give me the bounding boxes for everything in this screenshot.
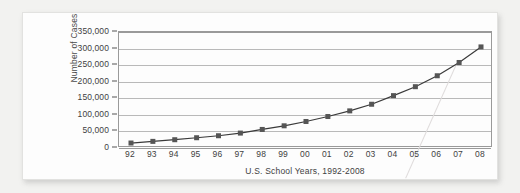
x-tick-label: 92	[118, 149, 142, 159]
x-tick-label: 95	[184, 149, 208, 159]
data-point-marker	[282, 123, 287, 128]
x-tick-label: 04	[381, 149, 405, 159]
data-point-marker	[194, 135, 199, 140]
data-point-marker	[435, 73, 440, 78]
x-axis-title: U.S. School Years, 1992-2008	[118, 166, 492, 176]
plot-area	[118, 31, 492, 147]
data-point-marker	[369, 102, 374, 107]
x-tick-label: 01	[315, 149, 339, 159]
y-tick-label: 0	[59, 142, 109, 152]
x-axis-tick-labels: 9293949596979899000102030405060708	[118, 149, 492, 163]
data-point-marker	[391, 93, 396, 98]
x-tick-label: 07	[446, 149, 470, 159]
figure-root: Number of Cases 050,000100,000150,000200…	[0, 0, 520, 193]
y-tick-mark	[112, 80, 117, 81]
y-tick-mark	[112, 113, 117, 114]
x-tick-label: 97	[227, 149, 251, 159]
y-tick-mark	[112, 64, 117, 65]
x-tick-label: 08	[468, 149, 492, 159]
x-tick-label: 93	[140, 149, 164, 159]
chart-card: Number of Cases 050,000100,000150,000200…	[22, 12, 498, 180]
series-line	[131, 47, 481, 143]
x-tick-label: 02	[337, 149, 361, 159]
data-point-marker	[347, 108, 352, 113]
x-tick-label: 96	[206, 149, 230, 159]
y-tick-label: 100,000	[59, 109, 109, 119]
y-axis-tick-labels: 050,000100,000150,000200,000250,000300,0…	[59, 31, 109, 147]
y-tick-mark	[112, 147, 117, 148]
x-tick-label: 05	[402, 149, 426, 159]
y-tick-mark	[112, 97, 117, 98]
y-tick-label: 350,000	[59, 26, 109, 36]
x-tick-label: 03	[359, 149, 383, 159]
x-tick-label: 94	[162, 149, 186, 159]
data-point-marker	[325, 114, 330, 119]
data-point-marker	[413, 84, 418, 89]
y-tick-mark	[112, 47, 117, 48]
data-point-marker	[150, 139, 155, 144]
data-point-marker	[479, 44, 484, 49]
data-point-marker	[172, 137, 177, 142]
y-tick-label: 150,000	[59, 92, 109, 102]
data-point-marker	[129, 141, 134, 146]
y-tick-label: 50,000	[59, 125, 109, 135]
data-point-marker	[260, 127, 265, 132]
data-point-marker	[238, 131, 243, 136]
y-tick-label: 300,000	[59, 43, 109, 53]
x-tick-label: 99	[271, 149, 295, 159]
x-tick-label: 98	[249, 149, 273, 159]
y-tick-mark	[112, 130, 117, 131]
x-tick-label: 00	[293, 149, 317, 159]
data-point-marker	[457, 60, 462, 65]
data-point-marker	[304, 119, 309, 124]
data-point-marker	[216, 133, 221, 138]
y-tick-mark	[112, 31, 117, 32]
x-tick-label: 06	[424, 149, 448, 159]
line-series-svg	[119, 32, 493, 148]
y-tick-label: 200,000	[59, 76, 109, 86]
y-tick-label: 250,000	[59, 59, 109, 69]
